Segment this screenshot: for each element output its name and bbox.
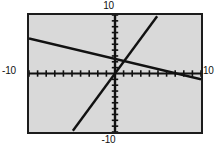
y-axis-min-label: -10 [0, 134, 217, 146]
y-axis-max-label: 10 [0, 0, 217, 12]
plot-canvas [29, 15, 201, 132]
graphing-calculator-plot: 10 -10 10 -10 [0, 0, 217, 162]
plot-frame [27, 13, 203, 134]
x-axis-max-label: 10 [203, 65, 217, 77]
x-axis-min-label: -10 [2, 65, 26, 77]
